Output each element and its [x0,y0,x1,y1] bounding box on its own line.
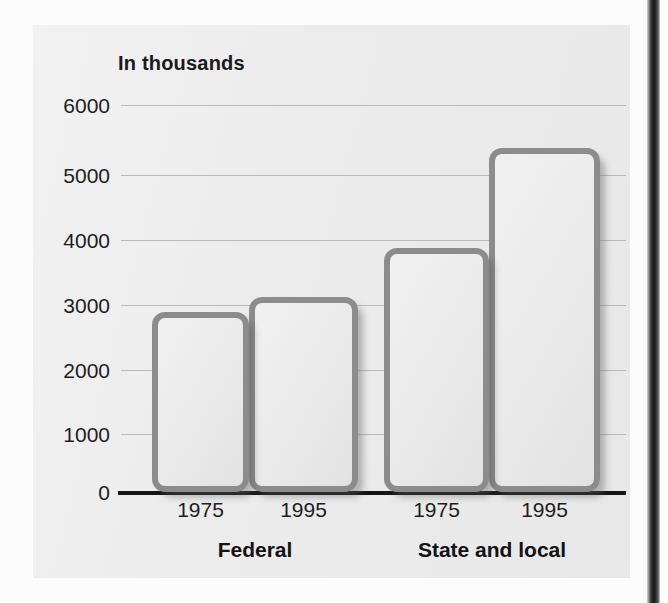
ytick-label-3000: 3000 [34,294,110,318]
bar-state-and-local-1975 [384,248,489,492]
xlabel-state-and-local-1975: 1975 [384,498,489,522]
xlabel-state-and-local-1995: 1995 [489,498,600,522]
ytick-label-6000: 6000 [34,94,110,118]
xlabel-federal-1995: 1995 [249,498,358,522]
bar-chart: In thousands 6000 5000 4000 3000 2000 10… [0,0,668,603]
ytick-label-2000: 2000 [34,359,110,383]
chart-axis-title: In thousands [118,52,245,75]
group-label-federal: Federal [152,538,358,562]
ytick-label-1000: 1000 [34,423,110,447]
ytick-label-4000: 4000 [34,229,110,253]
scanned-page: In thousands 6000 5000 4000 3000 2000 10… [0,0,668,603]
ytick-label-0: 0 [34,481,110,505]
bar-federal-1995 [249,297,358,492]
bar-federal-1975 [152,312,249,492]
bar-state-and-local-1995 [489,148,600,492]
ytick-label-5000: 5000 [34,164,110,188]
xlabel-federal-1975: 1975 [152,498,249,522]
gridline-6000 [121,105,626,106]
group-label-state-and-local: State and local [384,538,600,562]
